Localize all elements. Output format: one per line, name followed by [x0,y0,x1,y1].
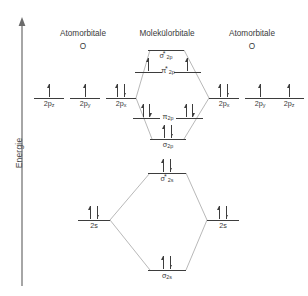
level-label: 2py [70,99,100,108]
level-label: σ2s [148,271,186,280]
level-label: 2pz [34,99,64,108]
electron-up-arrow-icon [258,84,263,97]
level-label: σ*2s [148,174,186,183]
electron-group [274,84,304,97]
electron-down-arrow-icon [122,84,127,97]
connector-line [186,220,207,270]
electron-down-arrow-icon [225,84,230,97]
energy-axis-label: Energie [14,118,24,188]
electron-up-arrow-icon [161,256,166,269]
electron-up-arrow-icon [141,104,146,117]
level-label: σ2p [150,140,186,149]
electron-up-arrow-icon [115,84,120,97]
level-label: 2s [207,221,239,230]
level-label: 2pz [274,99,304,108]
level-label: σ*2p [148,51,184,60]
level-label: 2py [245,99,275,108]
electron-group [78,206,110,219]
electron-up-arrow-icon [162,125,167,138]
connector-line [110,220,150,270]
electron-up-arrow-icon [218,84,223,97]
electron-up-arrow-icon [83,84,88,97]
electron-down-arrow-icon [95,206,100,219]
electron-group [148,256,186,269]
connector-line [110,173,150,220]
connector-line [184,50,209,98]
electron-group [34,84,64,97]
header-right-title: Atomorbitale [199,28,305,41]
electron-group [70,84,100,97]
level-label: 2px [209,99,239,108]
electron-group [245,84,275,97]
level-label: 2px [106,99,136,108]
mo-diagram-canvas: Energie Atomorbitale O Molekülorbitale A… [0,0,308,296]
connector-line [186,173,207,220]
up-arrow-axis-icon [19,17,26,26]
electron-up-arrow-icon [47,84,52,97]
electron-down-arrow-icon [169,125,174,138]
electron-group [150,125,186,138]
electron-up-arrow-icon [161,159,166,172]
header-left-atom: O [28,41,138,54]
electron-group [106,84,136,97]
electron-up-arrow-icon [287,84,292,97]
electron-down-arrow-icon [224,206,229,219]
electron-group [209,84,239,97]
header-right: Atomorbitale O [199,28,305,53]
header-right-atom: O [199,41,305,54]
electron-up-arrow-icon [217,206,222,219]
level-label: π2p [150,112,186,121]
level-label: π*2p [150,66,186,75]
electron-down-arrow-icon [168,256,173,269]
electron-up-arrow-icon [88,206,93,219]
electron-down-arrow-icon [168,159,173,172]
electron-group [148,159,186,172]
electron-down-arrow-icon [190,104,195,117]
electron-group [207,206,239,219]
level-label: 2s [78,221,110,230]
